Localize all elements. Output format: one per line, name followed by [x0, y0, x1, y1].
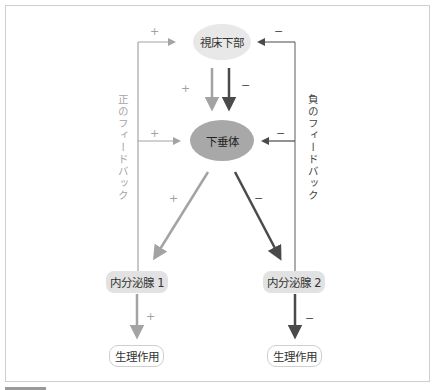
sign-hyp-down-pos: +	[181, 83, 190, 94]
endocrine-gland-1-node: 内分泌腺 1	[106, 271, 168, 293]
hypothalamus-node: 視床下部	[193, 24, 251, 60]
positive-feedback-loop	[138, 42, 177, 282]
negative-feedback-loop	[261, 42, 295, 282]
endocrine-gland-2-node: 内分泌腺 2	[263, 271, 325, 293]
sign-hyp-down-neg: −	[241, 80, 250, 91]
physiological-effect-2-node: 生理作用	[267, 345, 322, 367]
physiological-effect-1-node: 生理作用	[109, 345, 164, 367]
sign-mid-right: −	[276, 128, 285, 139]
sign-gland1-down: +	[146, 311, 155, 322]
positive-feedback-label: 正のフィードバック	[115, 94, 130, 202]
pit-to-gland2-arrow	[235, 172, 278, 254]
sign-diag-left: +	[169, 193, 178, 204]
pituitary-node: 下垂体	[190, 120, 254, 161]
pit-to-gland1-arrow	[157, 172, 208, 254]
sign-diag-right: −	[254, 193, 263, 204]
sign-top-right: −	[274, 26, 283, 37]
negative-feedback-label: 負のフィードバック	[305, 94, 320, 202]
sign-mid-left: +	[150, 128, 159, 139]
sign-gland2-down: −	[305, 313, 314, 324]
sign-top-left: +	[150, 26, 159, 37]
